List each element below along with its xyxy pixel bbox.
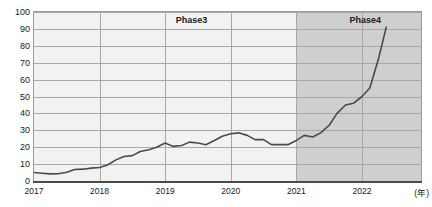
x-axis-tick-label: 2019: [156, 186, 175, 196]
x-axis-baseline: [33, 181, 422, 183]
x-axis-tick-label: 2017: [25, 186, 44, 196]
y-axis-tick-label: 60: [2, 76, 30, 85]
y-axis-tick-label: 70: [2, 59, 30, 68]
y-axis-tick-label: 50: [2, 93, 30, 102]
data-line-svg: [34, 12, 421, 181]
annotation-phase4: Phase4: [349, 15, 381, 25]
x-axis-tick-label: 2020: [221, 186, 240, 196]
x-axis-tick-label: 2018: [90, 186, 109, 196]
data-series-value: [34, 27, 386, 174]
x-axis-tick-label: 2022: [352, 186, 371, 196]
plot-inner: [34, 12, 421, 181]
y-axis-tick-label: 40: [2, 109, 30, 118]
x-axis-tick-label: 2021: [287, 186, 306, 196]
x-axis-unit-label: (年): [414, 186, 429, 198]
y-axis-tick-label: 80: [2, 42, 30, 51]
y-axis-tick-label: 90: [2, 25, 30, 34]
y-axis-tick-label: 100: [2, 8, 30, 17]
y-axis: 0102030405060708090100: [0, 0, 30, 193]
y-axis-tick-label: 10: [2, 160, 30, 169]
plot-area: [33, 11, 422, 182]
annotation-phase3: Phase3: [176, 15, 208, 25]
y-axis-tick-label: 30: [2, 126, 30, 135]
chart-container: 0102030405060708090100 20172018201920202…: [0, 0, 432, 207]
x-axis: 201720182019202020212022: [0, 184, 432, 200]
y-axis-tick-label: 20: [2, 143, 30, 152]
